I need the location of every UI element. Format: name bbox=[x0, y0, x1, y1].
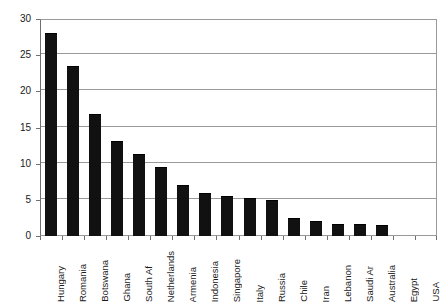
x-axis-label: Singapore bbox=[221, 241, 233, 302]
bar bbox=[221, 196, 233, 236]
bar-chart: 051015202530 HungaryRomaniaBotswanaGhana… bbox=[0, 0, 447, 302]
bar bbox=[111, 141, 123, 236]
bar bbox=[376, 225, 388, 236]
x-axis-label-text: Armenia bbox=[187, 267, 198, 302]
bar bbox=[354, 224, 366, 236]
y-tick-label: 5 bbox=[25, 195, 31, 205]
bar bbox=[332, 224, 344, 236]
bar bbox=[133, 154, 145, 236]
x-axis-label-text: Netherlands bbox=[165, 251, 176, 302]
x-axis-label-text: Australia bbox=[386, 265, 397, 302]
x-axis-labels: HungaryRomaniaBotswanaGhanaSouth AfNethe… bbox=[40, 241, 437, 302]
y-tick-label: 15 bbox=[20, 123, 31, 133]
bar bbox=[177, 185, 189, 236]
x-axis-label: Botswana bbox=[89, 241, 101, 302]
x-tick-mark bbox=[172, 236, 173, 240]
y-tick-label: 0 bbox=[25, 231, 31, 241]
x-tick-mark bbox=[349, 236, 350, 240]
x-axis-label-text: Indonesia bbox=[209, 261, 220, 302]
x-axis-label: Armenia bbox=[177, 241, 189, 302]
bar bbox=[310, 221, 322, 236]
x-axis-label: Lebanon bbox=[332, 241, 344, 302]
x-tick-mark bbox=[305, 236, 306, 240]
x-tick-mark bbox=[371, 236, 372, 240]
y-tick-label: 30 bbox=[20, 14, 31, 24]
x-axis-label-text: Iran bbox=[320, 286, 331, 302]
x-axis-label: Iran bbox=[310, 241, 322, 302]
bar bbox=[288, 218, 300, 236]
x-axis-label: Italy bbox=[244, 241, 256, 302]
x-tick-mark bbox=[393, 236, 394, 240]
x-axis-label-text: Saudi Ar bbox=[364, 266, 375, 302]
x-axis-label: Romania bbox=[67, 241, 79, 302]
x-tick-mark bbox=[106, 236, 107, 240]
x-axis-label: Australia bbox=[376, 241, 388, 302]
x-axis-label: Ghana bbox=[111, 241, 123, 302]
x-axis-label-text: Ghana bbox=[121, 273, 132, 302]
x-tick-mark bbox=[128, 236, 129, 240]
bar bbox=[89, 114, 101, 236]
bar bbox=[266, 200, 278, 236]
x-axis-label-text: Chile bbox=[298, 280, 309, 302]
bar bbox=[155, 167, 167, 236]
x-axis-label-text: Botswana bbox=[99, 260, 110, 302]
x-axis-label: Chile bbox=[288, 241, 300, 302]
y-tick-label: 10 bbox=[20, 159, 31, 169]
bar bbox=[67, 66, 79, 236]
y-axis: 051015202530 bbox=[0, 0, 40, 302]
x-tick-mark bbox=[436, 236, 437, 240]
y-tick-label: 25 bbox=[20, 50, 31, 60]
x-axis-label-text: Russia bbox=[276, 273, 287, 302]
x-axis-label: Hungary bbox=[45, 241, 57, 302]
x-axis-label: Egypt bbox=[398, 241, 410, 302]
x-tick-mark bbox=[62, 236, 63, 240]
x-axis-label-text: Hungary bbox=[55, 266, 66, 302]
x-axis-label: USA bbox=[420, 241, 432, 302]
bars-layer bbox=[40, 19, 437, 236]
x-tick-mark bbox=[150, 236, 151, 240]
x-tick-mark bbox=[239, 236, 240, 240]
x-axis-label-text: Lebanon bbox=[342, 265, 353, 302]
x-axis-label: Saudi Ar bbox=[354, 241, 366, 302]
x-axis-label-text: Singapore bbox=[231, 259, 242, 302]
x-tick-mark bbox=[283, 236, 284, 240]
x-axis-label-text: USA bbox=[430, 282, 441, 302]
x-axis-label-text: Romania bbox=[77, 264, 88, 302]
x-axis-label-text: Italy bbox=[254, 285, 265, 302]
bar bbox=[45, 33, 57, 236]
y-tick-label: 20 bbox=[20, 86, 31, 96]
x-tick-mark bbox=[40, 236, 41, 240]
x-tick-mark bbox=[216, 236, 217, 240]
x-axis-label: Indonesia bbox=[199, 241, 211, 302]
x-axis-label-text: Egypt bbox=[408, 278, 419, 302]
bar bbox=[244, 198, 256, 236]
x-axis-label-text: South Af bbox=[143, 266, 154, 302]
x-axis-label: Netherlands bbox=[155, 241, 167, 302]
x-tick-mark bbox=[261, 236, 262, 240]
bar bbox=[199, 193, 211, 236]
x-axis-label: South Af bbox=[133, 241, 145, 302]
x-tick-mark bbox=[84, 236, 85, 240]
x-axis-label: Russia bbox=[266, 241, 278, 302]
x-tick-mark bbox=[327, 236, 328, 240]
x-tick-mark bbox=[415, 236, 416, 240]
x-tick-mark bbox=[194, 236, 195, 240]
